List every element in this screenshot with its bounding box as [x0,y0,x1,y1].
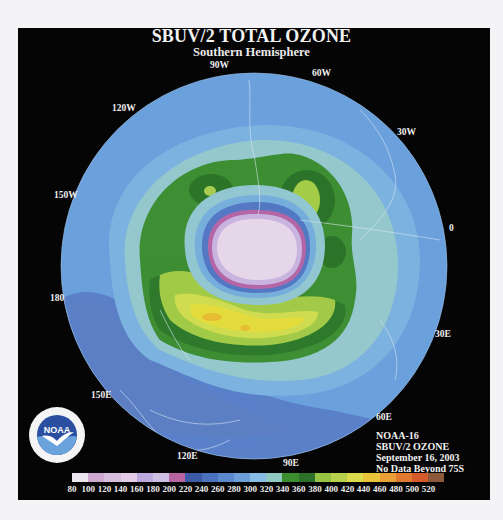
colorbar-swatch [299,473,315,482]
colorbar-swatch [363,473,379,482]
colorbar-swatch [169,473,185,482]
colorbar-swatch [88,473,104,482]
colorbar-swatch [428,473,444,482]
lon-label-30e: 30E [435,329,451,339]
colorbar-tick: 160 [130,484,144,494]
colorbar-tick: 300 [243,484,257,494]
colorbar-tick: 320 [260,484,274,494]
colorbar-tick: 140 [114,484,128,494]
colorbar-swatch [282,473,298,482]
colorbar-swatch [315,473,331,482]
colorbar-swatch [72,473,88,482]
lon-label-180: 180 [50,293,64,303]
colorbar-swatch [331,473,347,482]
lon-label-120e: 120E [177,451,198,461]
lon-label-60w: 60W [312,68,331,78]
satellite-label: NOAA-16 [376,430,464,441]
colorbar-swatch [153,473,169,482]
colorbar-tick: 340 [276,484,290,494]
colorbar-swatch [266,473,282,482]
svg-text:NOAA: NOAA [44,425,71,435]
colorbar-tick: 100 [81,484,95,494]
colorbar-tick: 520 [422,484,436,494]
colorbar-tick: 220 [179,484,193,494]
colorbar-swatch [396,473,412,482]
colorbar-swatch [121,473,137,482]
colorbar-swatch [234,473,250,482]
colorbar-tick: 120 [98,484,112,494]
noaa-logo-icon: NOAA [28,406,86,464]
ozone-hole-center [217,219,297,280]
colorbar-tick: 180 [146,484,160,494]
lon-label-90w: 90W [210,60,229,70]
colorbar-tick: 420 [341,484,355,494]
colorbar-tick: 240 [195,484,209,494]
colorbar-ticks: 80 100 120 140 160 180 200 220 240 260 2… [66,484,486,496]
lon-label-120w: 120W [112,103,136,113]
colorbar-tick: 480 [389,484,403,494]
colorbar-swatch [202,473,218,482]
colorbar-tick: 460 [373,484,387,494]
colorbar-tick: 280 [227,484,241,494]
lon-label-150e: 150E [91,390,112,400]
colorbar-tick: 80 [68,484,77,494]
data-info-block: NOAA-16 SBUV/2 OZONE September 16, 2003 … [376,430,464,474]
lon-label-150w: 150W [54,190,78,200]
colorbar-swatch [104,473,120,482]
colorbar-tick: 200 [162,484,176,494]
colorbar-swatch [380,473,396,482]
colorbar-tick: 380 [308,484,322,494]
colorbar-tick: 400 [324,484,338,494]
colorbar [72,473,444,482]
lon-label-0: 0 [449,223,454,233]
colorbar-swatch [412,473,428,482]
lon-label-60e: 60E [376,412,392,422]
lon-label-90e: 90E [283,458,299,468]
colorbar-swatch [218,473,234,482]
colorbar-tick: 440 [357,484,371,494]
instrument-label: SBUV/2 OZONE [376,441,464,452]
colorbar-tick: 260 [211,484,225,494]
colorbar-swatch [250,473,266,482]
colorbar-swatch [137,473,153,482]
lon-label-30w: 30W [397,127,416,137]
colorbar-swatch [347,473,363,482]
date-label: September 16, 2003 [376,452,464,463]
colorbar-swatch [185,473,201,482]
colorbar-tick: 360 [292,484,306,494]
colorbar-tick: 500 [405,484,419,494]
